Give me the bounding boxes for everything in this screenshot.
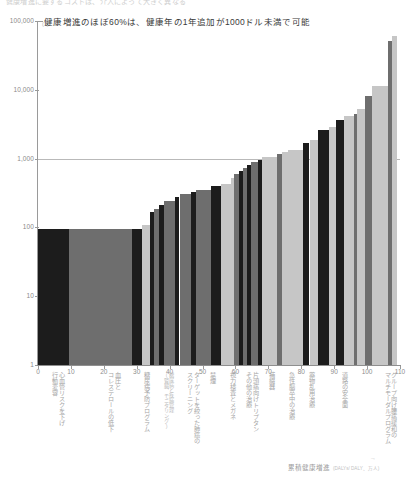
x-axis-tick-mark	[38, 366, 39, 369]
bar-24	[288, 150, 303, 365]
bar-33	[365, 96, 372, 365]
bar-11	[196, 190, 211, 365]
category-label-line: 薬物乱用治療	[308, 372, 315, 408]
bar-9	[180, 194, 192, 365]
chart-figure: 1101001,00010,000100,000 (1) 健康増進のほぼ60%は…	[0, 0, 409, 480]
bar-3	[142, 225, 150, 365]
bar-23	[282, 152, 289, 365]
category-label-line: 急性脳卒中の治療	[288, 372, 295, 420]
bar-34	[372, 86, 388, 365]
category-label-line: 視力検査とメガネ	[229, 372, 236, 420]
bar-32	[357, 109, 365, 365]
category-label-group-2: 糖尿病予防プログラム	[143, 372, 150, 432]
category-label-line: スクリーニング	[186, 372, 193, 444]
x-axis-tick-mark	[137, 366, 138, 369]
chart-annotation: 健康増進のほぼ60%は、健康年の1年追加が1000ドル未満で可能	[44, 15, 310, 27]
x-axis-tick-label: 100	[357, 368, 377, 375]
category-label-line: (腎臓、モニタリング)	[163, 372, 168, 429]
bar-26	[310, 140, 318, 365]
x-axis-line	[37, 365, 401, 366]
y-axis-tick-label: 10	[0, 292, 34, 299]
x-axis-tick-mark	[301, 366, 302, 369]
x-axis-tick-mark	[268, 366, 269, 369]
y-axis-tick-label: 1,000	[0, 155, 34, 162]
category-label-group-12: グループ向け腰痛緩和のマルチモーダルプログラム	[384, 372, 397, 444]
x-axis-tick-mark	[170, 366, 171, 369]
category-label-line: コレステロールの低下	[107, 372, 114, 432]
x-axis-tick-mark	[334, 366, 335, 369]
category-label-group-3: 糖尿病と疾病管理(腎臓、モニタリング)	[163, 372, 174, 429]
y-axis-tick-label: 100	[0, 223, 34, 230]
x-axis-tick-mark	[203, 366, 204, 369]
category-label-group-8: 補綴器	[268, 372, 275, 390]
bar-29	[336, 120, 344, 365]
bar-13	[221, 184, 231, 365]
y-axis-tick-label: 100,000	[0, 17, 34, 24]
bar-36	[392, 36, 397, 365]
x-axis-tick-mark	[400, 366, 401, 369]
bar-25	[303, 143, 310, 365]
category-label-line: 道路の安全面	[341, 372, 348, 408]
category-label-line: 禁煙	[209, 372, 216, 384]
bar-19	[251, 162, 259, 365]
category-label-group-1: 血圧とコレステロールの低下	[107, 372, 120, 432]
category-label-line: 行動変容	[51, 372, 58, 426]
category-label-group-5: 禁煙	[209, 372, 216, 384]
category-label-line: 糖尿病予防プログラム	[143, 372, 150, 432]
bar-27	[318, 130, 330, 365]
category-label-line: その他の治療	[245, 372, 252, 432]
category-label-group-10: 薬物乱用治療	[308, 372, 315, 408]
bar-21	[262, 157, 276, 365]
bar-7	[164, 201, 174, 365]
x-axis-arrow-icon: →	[370, 455, 376, 461]
x-axis-tick-mark	[367, 366, 368, 369]
category-label-line: グループ向け腰痛緩和の	[390, 372, 397, 444]
category-label-group-7: 片頭痛向けトリプタンその他の治療	[245, 372, 258, 432]
category-label-group-11: 道路の安全面	[341, 372, 348, 408]
x-axis-title-text: 累積健康増進	[288, 464, 330, 471]
bar-12	[211, 186, 221, 365]
y-axis-tick-label: 1	[0, 361, 34, 368]
bar-28	[329, 127, 336, 365]
category-label-group-4: ターゲットを絞った肺癌のスクリーニング	[186, 372, 199, 444]
bar-1	[69, 229, 132, 365]
category-label-group-6: 視力検査とメガネ	[229, 372, 236, 420]
x-axis-title: 累積健康増進(DALYs/ DALY、万人)	[288, 462, 379, 472]
category-label-line: 補綴器	[268, 372, 275, 390]
x-axis-tick-mark	[104, 366, 105, 369]
bar-0	[38, 229, 69, 365]
category-label-line: マルチモーダルプログラム	[384, 372, 391, 444]
x-axis-tick-label: 0	[28, 368, 48, 375]
category-label-group-0: 心血管リスクを下げ行動変容	[51, 372, 64, 426]
category-label-group-9: 急性脳卒中の治療	[288, 372, 295, 420]
x-axis-tick-mark	[71, 366, 72, 369]
bar-30	[344, 116, 354, 365]
bar-series	[38, 21, 400, 365]
x-axis-title-note: (DALYs/ DALY、万人)	[333, 466, 379, 471]
x-axis-tick-mark	[235, 366, 236, 369]
bar-2	[132, 229, 142, 365]
y-axis-tick-label: 10,000	[0, 86, 34, 93]
